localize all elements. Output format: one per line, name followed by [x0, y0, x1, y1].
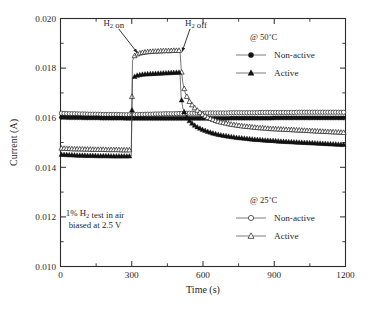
x-tick-label: 600 [196, 270, 210, 280]
annotation-test-conditions-line2: biased at 2.5 V [69, 220, 122, 230]
legend-label-active_50: Active [274, 68, 299, 78]
y-tick-label: 0.020 [35, 14, 56, 24]
legend-50c-header: @ 50˚C [250, 32, 278, 42]
marker-open-circle [248, 215, 253, 220]
x-tick-label: 1200 [336, 270, 355, 280]
y-tick-label: 0.016 [35, 113, 56, 123]
y-tick-label: 0.014 [35, 163, 56, 173]
y-axis-title: Current (A) [8, 119, 20, 166]
legend-label-nonactive_25: Non-active [274, 213, 315, 223]
marker-open-circle [341, 110, 345, 114]
legend-25c-header: @ 25˚C [250, 195, 278, 205]
chart-figure: 03006009001200 0.0100.0120.0140.0160.018… [0, 0, 368, 311]
y-tick-label: 0.010 [35, 262, 56, 272]
legend-label-active_25: Active [274, 231, 299, 241]
y-tick-label: 0.012 [35, 212, 56, 222]
chart-svg: 03006009001200 0.0100.0120.0140.0160.018… [0, 0, 368, 311]
x-tick-label: 900 [267, 270, 281, 280]
legend-label-nonactive_50: Non-active [274, 50, 315, 60]
x-tick-label: 0 [58, 270, 63, 280]
x-axis-title: Time (s) [186, 284, 220, 296]
marker-filled-circle [248, 52, 253, 57]
marker-filled-circle [341, 116, 345, 120]
x-tick-label: 300 [125, 270, 139, 280]
y-tick-label: 0.018 [35, 63, 56, 73]
